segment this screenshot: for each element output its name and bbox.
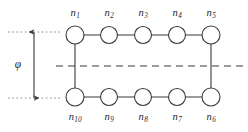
node-label-subscript-n7: 7	[178, 116, 182, 124]
node-n7	[169, 89, 186, 106]
node-n3	[135, 27, 152, 44]
node-label-subscript-n2: 2	[110, 12, 114, 20]
node-label-subscript-n4: 4	[178, 12, 182, 20]
node-label-base-n4: n	[173, 7, 178, 18]
node-label-subscript-n10: 10	[74, 116, 81, 124]
node-label-base-n6: n	[207, 111, 212, 122]
node-label-base-n5: n	[207, 7, 212, 18]
node-label-base-n9: n	[105, 111, 110, 122]
node-label-n7: n7	[173, 112, 182, 123]
node-label-base-n2: n	[105, 7, 110, 18]
node-n6	[202, 88, 220, 106]
node-label-subscript-n9: 9	[110, 116, 114, 124]
node-label-n4: n4	[173, 8, 182, 19]
node-label-base-n10: n	[69, 111, 74, 122]
node-label-base-n1: n	[71, 7, 76, 18]
node-label-n6: n6	[207, 112, 216, 123]
phi-symbol-label: φ	[15, 59, 21, 71]
node-n8	[135, 89, 152, 106]
node-label-n9: n9	[105, 112, 114, 123]
node-label-n1: n1	[71, 8, 80, 19]
node-label-subscript-n1: 1	[76, 12, 80, 20]
node-label-n3: n3	[139, 8, 148, 19]
node-label-base-n7: n	[173, 111, 178, 122]
node-label-base-n3: n	[139, 7, 144, 18]
node-label-n8: n8	[139, 112, 148, 123]
node-label-n5: n5	[207, 8, 216, 19]
node-n5	[202, 26, 220, 44]
node-n9	[101, 89, 118, 106]
node-label-base-n8: n	[139, 111, 144, 122]
node-n4	[169, 27, 186, 44]
node-label-subscript-n8: 8	[144, 116, 148, 124]
node-label-subscript-n5: 5	[212, 12, 216, 20]
node-label-n2: n2	[105, 8, 114, 19]
node-label-subscript-n6: 6	[212, 116, 216, 124]
node-label-subscript-n3: 3	[144, 12, 148, 20]
node-n2	[101, 27, 118, 44]
node-label-n10: n10	[69, 112, 81, 123]
node-n10	[66, 88, 84, 106]
node-n1	[66, 26, 84, 44]
figure-root: n1n2n3n4n5n6n7n8n9n10 φ	[0, 0, 248, 132]
